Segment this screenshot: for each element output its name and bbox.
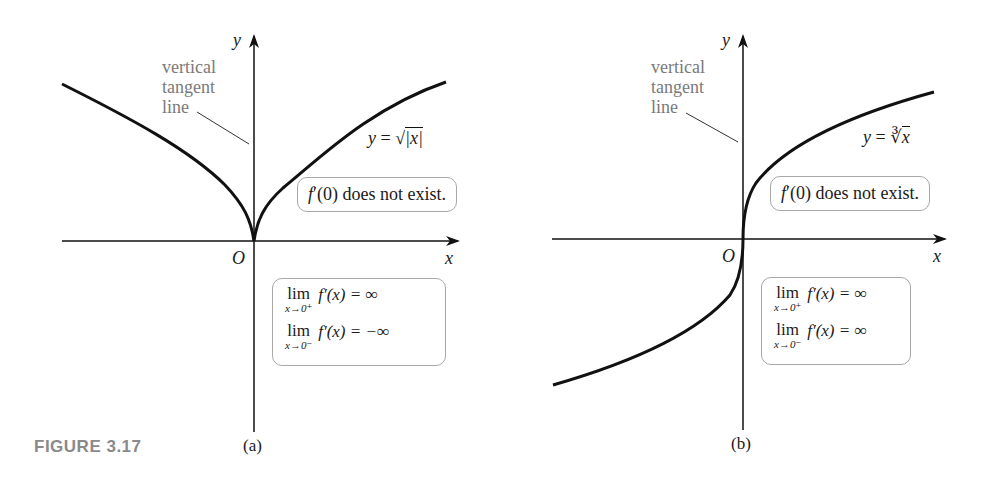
panel-b-function-label: y = ∛x <box>863 126 910 148</box>
lim-word: lim <box>287 322 310 340</box>
radicand: |x| <box>405 127 423 148</box>
lim-subscript: x→0⁻ <box>774 339 801 349</box>
lim-word: lim <box>776 321 799 339</box>
limit-expression: f′(x) = ∞ <box>807 321 866 341</box>
panel-a-axes <box>62 36 458 432</box>
annotation-line-1: vertical <box>651 57 705 77</box>
statement-text: ′(0) does not exist. <box>313 184 446 204</box>
lim-subscript: x→0⁻ <box>285 340 312 350</box>
limit-expression: f′(x) = −∞ <box>318 322 389 342</box>
limit-row-right: limx→0⁺ f′(x) = ∞ <box>285 285 433 322</box>
limit-expression: f′(x) = ∞ <box>807 284 866 304</box>
radical-sign: √ <box>395 128 405 148</box>
limit-row-right: limx→0⁺ f′(x) = ∞ <box>774 284 898 321</box>
statement-text: ′(0) does not exist. <box>786 183 919 203</box>
radical-sign: ∛ <box>890 127 901 147</box>
panel-a-function-label: y = √|x| <box>368 128 423 149</box>
panel-b-limits-box: limx→0⁺ f′(x) = ∞ limx→0⁻ f′(x) = ∞ <box>761 277 911 365</box>
panel-a-vertical-tangent-annotation: vertical tangent line <box>162 57 216 117</box>
limit-row-left: limx→0⁻ f′(x) = ∞ <box>774 321 898 358</box>
panel-b-axes <box>552 36 945 430</box>
limit-expression: f′(x) = ∞ <box>318 285 377 305</box>
panel-b-y-label: y <box>722 30 730 51</box>
lim-subscript: x→0⁺ <box>285 303 312 313</box>
panel-a-limits-box: limx→0⁺ f′(x) = ∞ limx→0⁻ f′(x) = −∞ <box>272 278 446 366</box>
annotation-line-3: line <box>162 97 216 117</box>
panel-b-leader-line <box>686 113 738 142</box>
annotation-line-2: tangent <box>162 77 216 97</box>
limit-row-left: limx→0⁻ f′(x) = −∞ <box>285 322 433 359</box>
panel-a-origin-label: O <box>232 248 245 269</box>
annotation-line-1: vertical <box>162 57 216 77</box>
radicand: x <box>902 126 910 147</box>
lim-subscript: x→0⁺ <box>774 302 801 312</box>
panel-b-vertical-tangent-annotation: vertical tangent line <box>651 57 705 117</box>
annotation-line-3: line <box>651 97 705 117</box>
lim-word: lim <box>287 285 310 303</box>
panel-a-x-label: x <box>445 248 453 269</box>
panel-b-origin-label: O <box>722 246 735 267</box>
panel-b-caption: (b) <box>731 434 751 454</box>
panel-a-statement-box: f′(0) does not exist. <box>297 177 457 212</box>
panel-b-statement-box: f′(0) does not exist. <box>770 176 930 211</box>
figure-label: FIGURE 3.17 <box>34 437 142 457</box>
panel-b-x-label: x <box>933 246 941 267</box>
figure-graphics <box>0 0 1002 481</box>
panel-a-y-label: y <box>233 30 241 51</box>
panel-a-caption: (a) <box>243 436 262 456</box>
lim-word: lim <box>776 284 799 302</box>
annotation-line-2: tangent <box>651 77 705 97</box>
